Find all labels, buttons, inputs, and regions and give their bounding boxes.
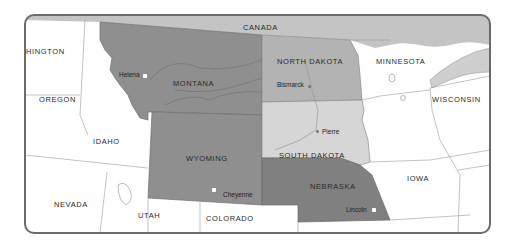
label-wisconsin: WISCONSIN — [432, 95, 481, 104]
label-utah: UTAH — [138, 211, 160, 220]
label-south-dakota: SOUTH DAKOTA — [279, 151, 345, 160]
label-montana: MONTANA — [173, 79, 214, 88]
label-idaho: IDAHO — [93, 137, 120, 146]
label-oregon: OREGON — [39, 95, 76, 104]
label-nebraska: NEBRASKA — [310, 182, 356, 191]
map: CANADA HINGTON OREGON IDAHO NEVADA UTAH … — [0, 0, 507, 250]
capital-marker-lincoln — [372, 208, 376, 212]
label-iowa: IOWA — [407, 174, 429, 183]
capital-marker-helena — [143, 74, 147, 78]
label-north-dakota: NORTH DAKOTA — [277, 57, 343, 66]
city-lincoln: Lincoln — [346, 206, 367, 213]
label-washington: HINGTON — [26, 47, 65, 56]
city-pierre: Pierre — [322, 128, 339, 135]
label-canada: CANADA — [243, 23, 278, 32]
label-wyoming: WYOMING — [186, 154, 228, 163]
label-colorado: COLORADO — [206, 214, 254, 223]
capital-marker-cheyenne — [212, 188, 216, 192]
label-nevada: NEVADA — [54, 200, 88, 209]
label-minnesota: MINNESOTA — [376, 57, 425, 66]
city-helena: Helena — [119, 71, 140, 78]
city-cheyenne: Cheyenne — [223, 191, 253, 198]
city-bismarck: Bismarck — [277, 81, 304, 88]
state-north-dakota — [262, 35, 362, 102]
capital-marker-pierre — [316, 130, 319, 133]
map-graphic — [0, 0, 507, 250]
capital-marker-bismarck — [308, 85, 311, 88]
